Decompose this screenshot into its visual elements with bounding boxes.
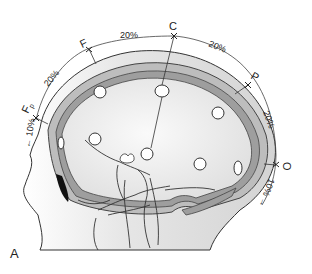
pct-fp-f: 20% [42,68,61,88]
electrode-o [234,161,242,175]
pct-c-p: 20% [207,39,227,55]
pct-f-c: 20% [120,30,138,40]
label-c: C [169,20,177,32]
electrode-p [212,107,224,119]
electrode-f3 [94,86,106,98]
electrode-t5 [194,158,206,170]
electrode-t [89,133,101,145]
label-o: O [281,162,293,171]
panel-label: A [10,246,19,261]
electrode-c [155,85,169,97]
eeg-diagram: Fp F C P O ← 10% 20% 20% 20% 20% 10% → [0,0,312,274]
label-p: P [249,69,261,83]
electrode-fp [58,137,64,149]
label-fp: Fp [19,100,36,116]
electrode-c-low [141,148,153,160]
